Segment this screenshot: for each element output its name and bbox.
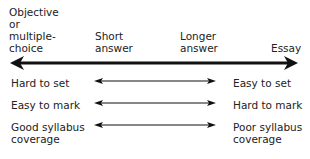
main-double-arrow-icon <box>10 56 298 70</box>
row-left-3: Good syllabus coverage <box>11 121 85 145</box>
row-left-2: Easy to mark <box>11 99 80 111</box>
row-left-1: Hard to set <box>11 77 69 89</box>
row-right-3: Poor syllabus coverage <box>233 121 302 145</box>
row-right-1: Easy to set <box>233 77 291 89</box>
row-arrow-icon <box>94 78 216 128</box>
row-right-2: Hard to mark <box>233 99 302 111</box>
